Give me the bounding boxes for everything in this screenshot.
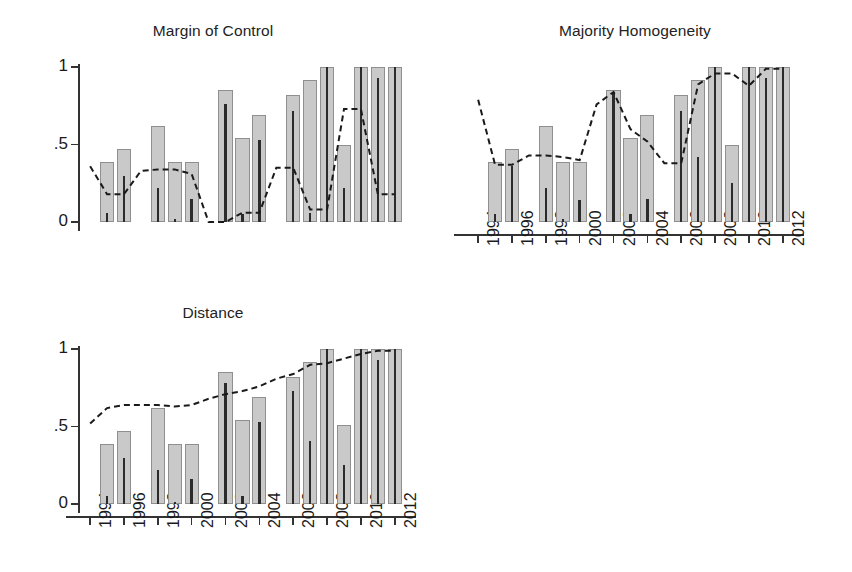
bar-inner-marker xyxy=(123,458,125,504)
x-tick-6 xyxy=(292,517,294,525)
bar-inner-marker xyxy=(224,104,226,222)
x-tick-9 xyxy=(394,517,396,525)
x-tick-0 xyxy=(477,235,479,243)
y-axis-line xyxy=(78,64,80,231)
plot-area-majority-homogeneity: 1994199619982000200220042006200820102012 xyxy=(468,58,798,222)
x-tick-0 xyxy=(89,517,91,525)
y-tick-1 xyxy=(71,144,78,146)
bar-inner-marker xyxy=(309,213,311,222)
bar-inner-marker xyxy=(174,219,176,222)
y-tick-label-0: 0 xyxy=(34,493,68,513)
x-tick-label-3: 2000 xyxy=(587,210,605,246)
bar-inner-marker xyxy=(343,188,345,222)
bar-inner-marker xyxy=(714,67,716,222)
plot-area-distance: 0.51199419961998200020022004200620082010… xyxy=(80,340,410,504)
chart-title-majority-homogeneity: Majority Homogeneity xyxy=(440,22,830,40)
bar-inner-marker xyxy=(292,391,294,504)
bar-inner-marker xyxy=(697,157,699,222)
x-tick-3 xyxy=(579,235,581,243)
bar-inner-marker xyxy=(174,502,176,504)
y-tick-1 xyxy=(71,426,78,428)
x-tick-2 xyxy=(545,235,547,243)
bar-inner-marker xyxy=(545,188,547,222)
bar-inner-marker xyxy=(241,496,243,504)
x-tick-8 xyxy=(360,517,362,525)
bar-inner-marker xyxy=(748,67,750,222)
chart-title-distance: Distance xyxy=(18,304,408,322)
bar-inner-marker xyxy=(292,111,294,222)
x-tick-3 xyxy=(191,517,193,525)
plot-area-margin-of-control: 0.51 xyxy=(80,58,410,222)
bar-inner-marker xyxy=(326,349,328,504)
bar-inner-marker xyxy=(394,67,396,222)
bar-inner-marker xyxy=(157,188,159,222)
x-tick-1 xyxy=(123,517,125,525)
bar xyxy=(168,444,182,504)
bar-inner-marker xyxy=(612,92,614,222)
bar-inner-marker xyxy=(190,479,192,504)
bar-inner-marker xyxy=(360,67,362,222)
x-tick-7 xyxy=(326,517,328,525)
x-tick-8 xyxy=(748,235,750,243)
bar xyxy=(100,444,114,504)
x-tick-label-5: 2004 xyxy=(654,210,672,246)
bar-inner-marker xyxy=(157,470,159,504)
bar-inner-marker xyxy=(360,349,362,504)
bar-inner-marker xyxy=(782,67,784,222)
y-tick-2 xyxy=(71,348,78,350)
trend-dashed-path xyxy=(90,351,395,424)
bar-inner-marker xyxy=(258,422,260,504)
y-tick-2 xyxy=(71,66,78,68)
x-tick-4 xyxy=(225,517,227,525)
x-tick-7 xyxy=(714,235,716,243)
y-tick-0 xyxy=(71,503,78,505)
y-tick-0 xyxy=(71,221,78,223)
bar-inner-marker xyxy=(394,349,396,504)
bar-inner-marker xyxy=(562,219,564,222)
bar-inner-marker xyxy=(731,183,733,222)
y-tick-label-0: 0 xyxy=(34,211,68,231)
bar xyxy=(556,162,570,222)
x-tick-5 xyxy=(647,235,649,243)
bar-inner-marker xyxy=(123,176,125,222)
bar xyxy=(488,162,502,222)
bar-inner-marker xyxy=(326,67,328,222)
x-tick-label-3: 2000 xyxy=(199,492,217,528)
bar xyxy=(303,80,317,222)
bar-inner-marker xyxy=(646,199,648,222)
bar-inner-marker xyxy=(241,214,243,222)
bar-inner-marker xyxy=(377,360,379,504)
x-tick-label-9: 2012 xyxy=(790,210,808,246)
y-tick-label-2: 1 xyxy=(34,56,68,76)
bar-inner-marker xyxy=(343,465,345,504)
y-axis-line xyxy=(78,346,80,513)
x-tick-6 xyxy=(680,235,682,243)
x-tick-2 xyxy=(157,517,159,525)
bar xyxy=(623,138,637,222)
bar-inner-marker xyxy=(258,140,260,222)
x-tick-5 xyxy=(259,517,261,525)
x-tick-9 xyxy=(782,235,784,243)
bar-inner-marker xyxy=(377,78,379,222)
bar-inner-marker xyxy=(494,214,496,222)
x-tick-label-9: 2012 xyxy=(402,492,420,528)
x-tick-label-5: 2004 xyxy=(266,492,284,528)
bar xyxy=(235,138,249,222)
bar-inner-marker xyxy=(765,78,767,222)
bar-inner-marker xyxy=(309,441,311,504)
x-tick-4 xyxy=(613,235,615,243)
bar-inner-marker xyxy=(106,496,108,504)
chart-title-margin-of-control: Margin of Control xyxy=(18,22,408,40)
bar-inner-marker xyxy=(578,200,580,222)
y-tick-label-1: .5 xyxy=(34,134,68,154)
bar-inner-marker xyxy=(680,111,682,222)
bar xyxy=(168,162,182,222)
bar-inner-marker xyxy=(106,213,108,222)
x-tick-1 xyxy=(511,235,513,243)
bar xyxy=(235,420,249,504)
y-tick-label-2: 1 xyxy=(34,338,68,358)
x-tick-label-1: 1996 xyxy=(519,210,537,246)
bar-inner-marker xyxy=(224,383,226,504)
bar-inner-marker xyxy=(511,166,513,222)
x-tick-label-1: 1996 xyxy=(131,492,149,528)
